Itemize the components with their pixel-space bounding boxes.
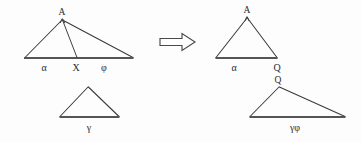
label-left-alpha: α (41, 62, 47, 73)
label-right-alpha: α (231, 62, 237, 73)
right-top-right-side (247, 18, 277, 58)
label-left-X: X (72, 62, 80, 73)
right-top-left-side (216, 18, 247, 58)
triangle-right-side (63, 20, 134, 58)
label-gamma-phi: γφ (289, 122, 300, 133)
left-subdivided-triangle (24, 19, 134, 58)
right-block-arrow-icon (160, 34, 195, 51)
label-left-apex-A: A (59, 7, 66, 17)
diagram-canvas: A α X φ γ A α Q Q γφ (0, 0, 361, 143)
arrow-outline (160, 34, 195, 51)
left-gamma-triangle (60, 87, 120, 117)
label-left-phi: φ (101, 62, 107, 73)
label-right-Q: Q (273, 62, 281, 73)
label-gamma: γ (86, 122, 92, 133)
gamma-triangle-right-side (88, 87, 119, 117)
right-top-apex-tick-marks (245, 17, 249, 21)
label-right-bottom-Q: Q (275, 75, 282, 85)
triangle-cevian (63, 20, 78, 58)
label-right-apex-A: A (244, 5, 251, 15)
geometry-figure: A α X φ γ A α Q Q γφ (0, 0, 361, 143)
right-bottom-triangle (250, 87, 346, 117)
gamma-triangle-left-side (60, 87, 88, 117)
right-top-triangle (216, 17, 278, 58)
right-bottom-left-side (250, 87, 279, 117)
triangle-left-side (25, 20, 62, 58)
right-bottom-right-side (279, 87, 345, 117)
